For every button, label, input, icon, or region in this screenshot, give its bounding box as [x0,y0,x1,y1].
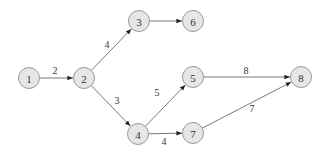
edge-line [91,86,130,127]
edge-weight-label: 4 [105,39,110,50]
node-label: 3 [136,16,142,28]
edge-4-7: 4 [148,133,182,146]
node-label: 7 [190,128,196,140]
edge-2-4: 3 [91,86,130,127]
node-2: 2 [74,68,95,89]
node-label: 6 [190,16,196,28]
node-7: 7 [183,123,204,144]
edge-5-8: 8 [204,65,291,78]
node-6: 6 [183,11,204,32]
edge-line [202,82,291,128]
node-1: 1 [19,68,40,89]
node-3: 3 [129,11,150,32]
edge-weight-label: 4 [162,136,167,147]
edge-2-3: 4 [91,29,131,71]
edge-weight-label: 5 [155,87,160,98]
nodes-layer: 12364578 [19,11,312,145]
node-5: 5 [183,67,204,88]
edge-line [145,85,185,127]
edge-7-8: 7 [202,82,291,128]
node-label: 4 [135,129,141,141]
node-4: 4 [128,124,149,145]
node-label: 1 [26,73,32,85]
node-label: 2 [81,73,87,85]
graph-diagram: 2435847 12364578 [0,0,325,159]
edge-weight-label: 3 [115,95,120,106]
edge-4-5: 5 [145,85,185,127]
node-label: 8 [298,72,304,84]
edge-weight-label: 8 [244,65,249,76]
edge-line [148,133,182,134]
node-label: 5 [190,72,196,84]
edge-1-2: 2 [40,65,74,79]
edge-weight-label: 2 [53,65,58,76]
edge-line [91,29,131,71]
node-8: 8 [291,67,312,88]
edge-weight-label: 7 [250,103,255,114]
